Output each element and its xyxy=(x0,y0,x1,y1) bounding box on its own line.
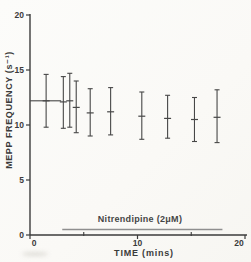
y-axis-title: MEPP FREQUENCY (s⁻¹) xyxy=(4,51,14,169)
data-point xyxy=(214,90,221,143)
y-tick-label: 5 xyxy=(19,175,24,185)
data-point xyxy=(73,81,80,133)
x-tick-label: 0 xyxy=(32,238,37,248)
x-tick-label: 10 xyxy=(133,238,143,248)
data-point xyxy=(66,73,73,127)
data-point xyxy=(138,92,145,139)
y-tick-label: 10 xyxy=(15,120,25,130)
x-axis-title: TIME (mins) xyxy=(114,248,174,258)
data-point xyxy=(60,77,67,129)
data-point xyxy=(43,74,50,127)
data-point xyxy=(87,89,94,136)
data-point xyxy=(107,88,114,135)
y-tick-label: 0 xyxy=(19,230,24,240)
data-point xyxy=(164,95,171,138)
y-tick-label: 20 xyxy=(15,10,25,20)
x-tick-label: 20 xyxy=(234,238,244,248)
y-tick-label: 15 xyxy=(15,65,25,75)
treatment-annotation: Nitrendipine (2μM) xyxy=(98,214,182,224)
data-point xyxy=(191,98,198,142)
chart-figure: 0510152001020 MEPP FREQUENCY (s⁻¹) TIME … xyxy=(0,0,251,262)
scan-smudge xyxy=(22,252,48,256)
